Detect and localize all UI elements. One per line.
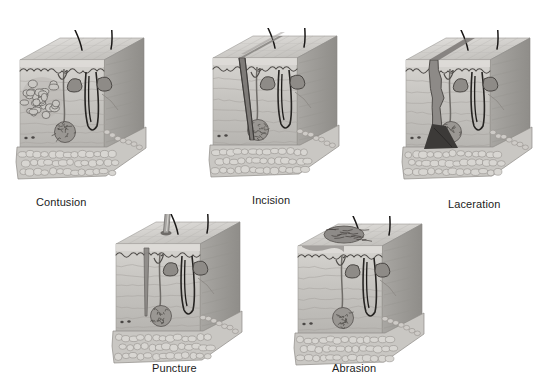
- skin-block-contusion: [12, 30, 162, 195]
- wound-illustration-incision: [205, 28, 355, 193]
- skin-block-incision: [205, 28, 355, 193]
- wound-illustration-abrasion: [290, 216, 440, 381]
- wound-label-contusion: Contusion: [36, 196, 86, 208]
- wound-label-puncture: Puncture: [152, 362, 197, 374]
- wound-label-incision: Incision: [252, 194, 290, 206]
- wound-label-laceration: Laceration: [448, 198, 500, 210]
- wound-illustration-laceration: [398, 30, 548, 195]
- skin-block-abrasion: [290, 216, 440, 381]
- wound-illustration-puncture: [108, 214, 258, 379]
- wound-label-abrasion: Abrasion: [332, 362, 376, 374]
- skin-block-laceration: [398, 30, 548, 195]
- wound-types-figure: ContusionIncisionLacerationPunctureAbras…: [0, 0, 553, 388]
- wound-illustration-contusion: [12, 30, 162, 195]
- skin-block-puncture: [108, 214, 258, 379]
